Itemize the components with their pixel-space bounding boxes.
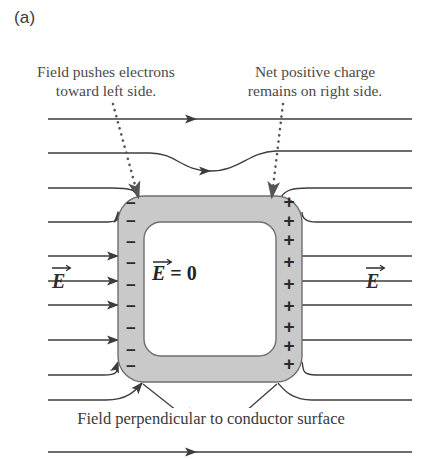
field-line-10-right [278,383,412,400]
positive-charge-sign: + [283,229,294,250]
negative-charge-sign: − [126,357,136,376]
efield-label-left: E [52,270,65,293]
interior-field-equals-zero: = 0 [165,262,196,284]
negative-charge-sign: − [126,212,136,231]
field-line-2-right [210,151,412,171]
positive-charge-sign: + [283,316,294,337]
caption-field-perpendicular: Field perpendicular to conductor surface [0,408,422,431]
conductor-interior-cavity [144,222,276,356]
leader-dotted-right [272,104,283,196]
negative-charge-sign: − [126,297,136,316]
field-line-4-right [302,212,412,222]
positive-charge-sign: + [283,295,294,316]
positive-charge-sign: + [283,210,294,231]
field-line-4-left [48,212,118,222]
negative-charge-sign: − [126,233,136,252]
positive-charge-sign: + [283,273,294,294]
field-line-2-left [48,153,210,171]
negative-charge-sign: − [126,276,136,295]
field-line-10-left [48,383,142,400]
field-line-9-right [302,362,412,375]
positive-charge-sign: + [283,251,294,272]
interior-field-label: E = 0 [152,262,197,285]
efield-label-right: E [366,270,379,293]
conductor [118,196,302,382]
negative-charge-sign: − [126,194,136,213]
negative-charge-sign: − [126,254,136,273]
conductor-field-diagram: −−−−−−−−−+++++++++ [0,0,422,459]
field-line-3-right [281,188,412,197]
negative-charge-sign: − [126,319,136,338]
positive-charge-sign: + [283,191,294,212]
positive-charge-sign: + [283,353,294,374]
field-line-9-left [48,362,118,375]
leader-dotted-left [113,104,138,196]
interior-field-symbol: E [152,262,165,284]
